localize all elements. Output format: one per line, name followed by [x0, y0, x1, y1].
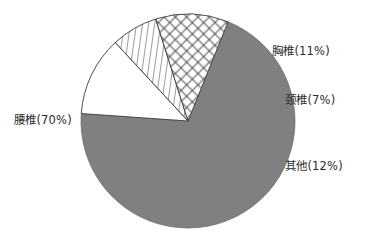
- pie-label-qita: 其他(12%): [285, 161, 343, 173]
- pie-label-jingzhui: 颈椎(7%): [285, 95, 335, 107]
- pie-label-yaozhui: 腰椎(70%): [14, 115, 72, 127]
- pie-label-xiongzhui: 胸椎(11%): [272, 46, 330, 58]
- pie-chart: 胸椎(11%) 颈椎(7%) 其他(12%) 腰椎(70%): [0, 0, 374, 242]
